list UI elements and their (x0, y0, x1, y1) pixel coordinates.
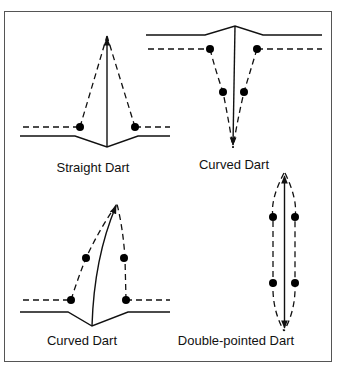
double-pointed-dart-label: Double-pointed Dart (178, 333, 295, 348)
marker-dot (120, 254, 128, 262)
marker-dot (291, 279, 299, 287)
darts-diagram: Straight Dart Curved Dart Curved Dart (0, 0, 339, 367)
curved-dart-bottom-label: Curved Dart (47, 333, 117, 348)
dart-leg-left (272, 173, 284, 331)
curved-dart-bottom-panel: Curved Dart (20, 204, 170, 348)
fold-line-arrow (233, 26, 235, 145)
marker-dot (269, 213, 277, 221)
double-pointed-dart-panel: Double-pointed Dart (178, 173, 299, 348)
marker-dot (240, 88, 248, 96)
marker-dot (269, 279, 277, 287)
dart-leg-right (107, 36, 135, 127)
marker-dot (131, 123, 139, 131)
dart-leg-right (233, 49, 257, 148)
marker-dot (219, 88, 227, 96)
marker-dot (82, 254, 90, 262)
straight-dart-panel: Straight Dart (20, 36, 170, 175)
figure-frame (5, 12, 332, 362)
marker-dot (253, 45, 261, 53)
curved-dart-top-label: Curved Dart (199, 157, 269, 172)
dart-leg-left (71, 204, 117, 300)
marker-dot (122, 296, 130, 304)
marker-dot (206, 45, 214, 53)
dart-leg-right (284, 173, 296, 331)
curved-dart-top-panel: Curved Dart (146, 26, 322, 172)
dart-leg-left (80, 36, 107, 127)
dart-leg-right (117, 204, 126, 300)
marker-dot (291, 213, 299, 221)
dart-leg-left (210, 49, 233, 148)
straight-dart-label: Straight Dart (57, 160, 130, 175)
seam-line (20, 136, 170, 147)
marker-dot (67, 296, 75, 304)
marker-dot (76, 123, 84, 131)
seam-line (146, 26, 322, 35)
seam-line (20, 312, 170, 326)
